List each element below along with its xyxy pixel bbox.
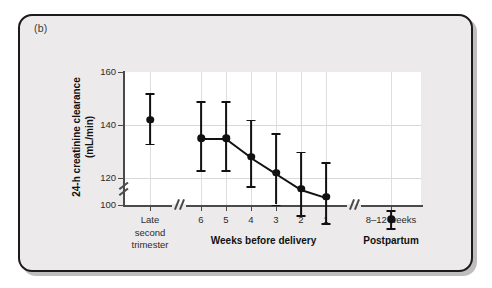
grid-line-y-120 — [124, 178, 421, 179]
error-bar-cap-lower — [297, 215, 306, 217]
error-bar-cap-lower — [222, 170, 231, 172]
error-bar-cap-upper — [197, 101, 206, 103]
error-bar-cap-lower — [197, 170, 206, 172]
y-axis-title-line1: 24-h creatinine clearance — [70, 74, 83, 200]
error-bar-cap-lower — [272, 205, 281, 207]
error-bar-cap-lower — [387, 228, 396, 230]
y-tick-label-140: 140 — [90, 119, 116, 130]
y-tick-label-120: 120 — [90, 172, 116, 183]
x-group-label-weeks-before-delivery: Weeks before delivery — [184, 235, 344, 246]
y-tick-label-100: 100 — [90, 199, 116, 210]
data-point — [247, 153, 255, 161]
x-axis-break-icon-2 — [347, 198, 363, 212]
error-bar-cap-lower — [146, 144, 155, 146]
grid-line-y-140 — [124, 125, 421, 126]
figure-panel-b: (b) 24-h creatinine clearance (mL/min) 1… — [0, 0, 492, 288]
error-bar-cap-upper — [272, 133, 281, 135]
x-tick-label-line: second — [118, 227, 182, 240]
y-axis-break-icon — [117, 182, 131, 198]
error-bar-cap-upper — [247, 120, 256, 122]
error-bar-cap-upper — [322, 162, 331, 164]
x-group-label-postpartum: Postpartum — [336, 235, 446, 246]
error-bar-cap-upper — [222, 101, 231, 103]
x-tick-label-week-6: 6 — [192, 214, 210, 225]
data-point — [222, 135, 230, 143]
plot-area-background — [124, 72, 421, 206]
x-tick-label-line: trimester — [118, 239, 182, 252]
error-bar-cap-upper — [297, 152, 306, 154]
panel-label: (b) — [34, 22, 47, 34]
data-point — [322, 193, 330, 201]
data-point — [297, 185, 305, 193]
error-bar-cap-lower — [322, 223, 331, 225]
x-tick-label-week-5: 5 — [217, 214, 235, 225]
y-tick-label-160: 160 — [90, 66, 116, 77]
data-point — [197, 135, 205, 143]
x-tick-label-week-4: 4 — [242, 214, 260, 225]
error-bar-cap-upper — [387, 210, 396, 212]
data-point — [272, 169, 280, 177]
data-point — [387, 215, 395, 223]
error-bar — [300, 152, 302, 216]
grid-line-x — [391, 72, 392, 205]
data-point — [146, 116, 154, 124]
x-tick-label-line: Late — [118, 214, 182, 227]
x-tick-label-late-second-trimester: Latesecondtrimester — [118, 214, 182, 252]
error-bar-cap-upper — [146, 93, 155, 95]
x-axis-break-icon-1 — [172, 198, 188, 212]
x-tick-label-week-3: 3 — [267, 214, 285, 225]
error-bar-cap-lower — [247, 186, 256, 188]
